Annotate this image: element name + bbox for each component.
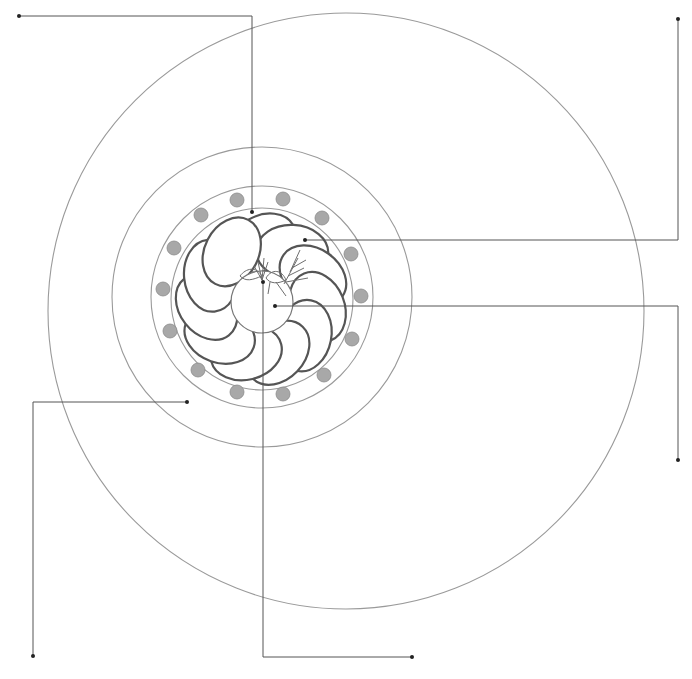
rim-dot bbox=[317, 368, 331, 382]
leader-target-dot bbox=[261, 280, 265, 284]
rim-dot bbox=[354, 289, 368, 303]
leader-target-dot bbox=[250, 210, 254, 214]
leader-target-dot bbox=[185, 400, 189, 404]
leader-target-dot bbox=[303, 238, 307, 242]
rim-dot bbox=[276, 387, 290, 401]
rim-dot bbox=[156, 282, 170, 296]
rim-dot bbox=[315, 211, 329, 225]
leader-endpoint-dot bbox=[31, 654, 35, 658]
leader-line bbox=[33, 402, 187, 656]
plating-diagram bbox=[0, 0, 692, 679]
leader-endpoint-dot bbox=[17, 14, 21, 18]
leader-target-dot bbox=[273, 304, 277, 308]
rim-dot bbox=[191, 363, 205, 377]
rim-dot bbox=[194, 208, 208, 222]
leader-endpoint-dot bbox=[676, 17, 680, 21]
rim-dot bbox=[230, 193, 244, 207]
rim-dot bbox=[163, 324, 177, 338]
leader-endpoint-dot bbox=[410, 655, 414, 659]
leader-line bbox=[19, 16, 252, 212]
rim-dot bbox=[230, 385, 244, 399]
leader-line bbox=[305, 19, 678, 240]
rim-dot bbox=[345, 332, 359, 346]
rim-dot bbox=[276, 192, 290, 206]
rim-dot bbox=[344, 247, 358, 261]
rim-dot bbox=[167, 241, 181, 255]
leader-endpoint-dot bbox=[676, 458, 680, 462]
